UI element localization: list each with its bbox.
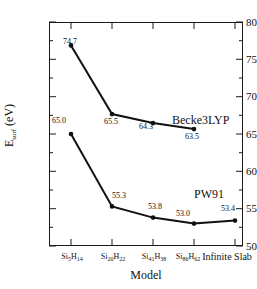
series-annotation-pw91: PW91 — [194, 188, 224, 200]
x-tick-base: H — [71, 252, 77, 261]
x-tick-sub: 20 — [107, 256, 113, 262]
y-tick-label: 80 — [211, 17, 257, 28]
x-tick-sub: 22 — [119, 256, 125, 262]
value-label-becke3lyp-2: 64.3 — [139, 123, 153, 131]
y-tick-label: 65 — [211, 129, 257, 140]
y-axis-title: Esurf (eV) — [2, 91, 17, 161]
x-tick-base: Si — [61, 252, 68, 261]
x-tick-sub: 41 — [148, 256, 154, 262]
series-annotation-becke3lyp: Becke3LYP — [172, 114, 229, 126]
y-tick-label: 75 — [211, 54, 257, 65]
y-axis-title-main: E — [2, 140, 16, 147]
y-tick-label: 60 — [211, 166, 257, 177]
value-label-pw91-4: 53.4 — [221, 205, 235, 213]
chart-figure: 80 75 70 65 60 55 50 Si5H14 Si20H22 Si41… — [0, 0, 257, 289]
y-axis-title-sub: surf — [10, 129, 18, 140]
y-axis-title-unit: (eV) — [2, 104, 16, 129]
x-axis-title: Model — [49, 268, 243, 283]
x-tick-label-4: Infinite Slab — [198, 252, 256, 261]
x-tick-sub: 5 — [68, 256, 71, 262]
x-tick-sub: 86 — [182, 256, 188, 262]
value-label-becke3lyp-1: 65.5 — [104, 118, 118, 126]
value-label-pw91-2: 53.8 — [148, 203, 162, 211]
value-label-becke3lyp-0: 74.7 — [63, 38, 77, 46]
x-tick-sub: 14 — [77, 256, 83, 262]
value-label-pw91-3: 53.0 — [176, 210, 190, 218]
value-label-pw91-0: 65.0 — [52, 117, 66, 125]
value-label-becke3lyp-3: 63.5 — [185, 133, 199, 141]
y-tick-label: 70 — [211, 91, 257, 102]
value-label-pw91-1: 55.3 — [112, 192, 126, 200]
